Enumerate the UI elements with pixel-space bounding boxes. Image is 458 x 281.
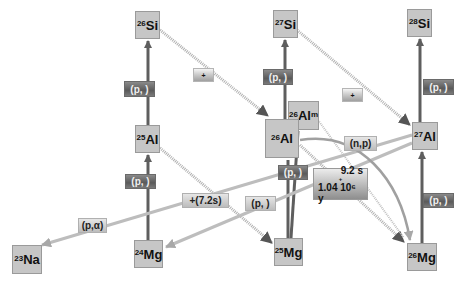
label-al26-decay: 9.2 s + 1.04 10⁶ y [313,168,368,200]
nucleus-si28: 28Si [407,9,432,37]
element-symbol: Si [418,16,430,31]
nucleus-mg25: 25Mg [274,238,303,266]
label-pa-al27-na23: (p,α) [78,218,107,233]
label-pg-mg25-al26: (p, ) [278,165,308,180]
label-beta-si26: + [193,68,214,82]
element-symbol: Na [23,252,40,267]
label-beta-al25: +(7.2s) [182,193,229,208]
beta-si26-al26 [160,30,268,116]
nucleus-si27: 27Si [273,10,298,38]
label-pg-mg26-al27: (p, ) [423,193,454,208]
label-pg-mg24-al25: (p, ) [125,174,156,189]
element-symbol: Si [284,17,296,32]
label-pg-al26-si27: (p, ) [263,69,293,85]
element-symbol: Al [423,129,436,144]
label-pg-al27-si28: (p, ) [423,79,454,95]
nucleus-al25: 25Al [135,125,160,153]
al26m-halflife: 9.2 s [341,165,363,176]
element-symbol: Al [145,132,158,147]
element-symbol: Si [146,18,158,33]
nucleus-mg26: 26Mg [407,243,437,271]
reaction-arrows [0,0,458,281]
label-np-al26-mg26: (n,p) [344,136,377,151]
label-beta-si27: + [342,88,363,102]
element-symbol: Mg [417,250,436,265]
element-symbol: Mg [284,245,303,260]
al26-halflife: 1.04 10⁶ y [318,182,363,204]
nucleus-mg24: 24Mg [134,240,163,268]
nucleus-na23: 23Na [12,245,42,274]
nucleus-si26: 26Si [135,11,160,39]
nucleus-al27: 27Al [412,122,438,150]
element-symbol: Al [280,131,293,146]
element-symbol: Al [298,108,311,123]
element-symbol: Mg [144,247,163,262]
nucleus-al26: 26Al [265,119,299,158]
label-pg-al25-si26: (p, ) [124,81,155,97]
label-pa-al27-mg24: (p, ) [245,196,276,211]
